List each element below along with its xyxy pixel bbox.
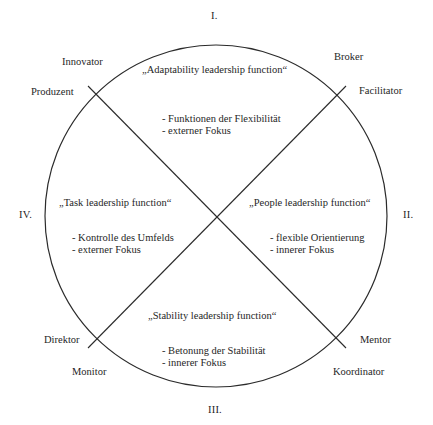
role-label-direktor: Direktor bbox=[44, 334, 80, 346]
quadrant-bullets-adaptability: - Funktionen der Flexibilität - externer… bbox=[162, 113, 281, 138]
quadrant-numeral-iii: III. bbox=[208, 404, 222, 416]
quadrant-numeral-ii: II. bbox=[403, 209, 413, 221]
role-label-produzent: Produzent bbox=[31, 86, 74, 98]
bullet-item: - innerer Fokus bbox=[270, 244, 364, 256]
role-label-koordinator: Koordinator bbox=[333, 366, 384, 378]
bullet-item: - Kontrolle des Umfelds bbox=[72, 232, 174, 244]
role-label-broker: Broker bbox=[334, 51, 363, 63]
quadrant-title-adaptability: „Adaptability leadership function“ bbox=[142, 64, 287, 76]
bullet-item: - flexible Orientierung bbox=[270, 232, 364, 244]
bullet-item: - Funktionen der Flexibilität bbox=[162, 113, 281, 125]
bullet-item: - Betonung der Stabilität bbox=[162, 345, 266, 357]
role-label-mentor: Mentor bbox=[360, 334, 391, 346]
quadrant-numeral-i: I. bbox=[211, 10, 218, 22]
quadrant-title-people: „People leadership function“ bbox=[249, 197, 370, 209]
diagram-canvas: I. II. III. IV. Innovator Produzent Brok… bbox=[0, 0, 433, 425]
bullet-item: - innerer Fokus bbox=[162, 357, 266, 369]
quadrant-numeral-iv: IV. bbox=[19, 209, 32, 221]
role-label-innovator: Innovator bbox=[62, 56, 103, 68]
quadrant-bullets-people: - flexible Orientierung - innerer Fokus bbox=[270, 232, 364, 257]
quadrant-title-task: „Task leadership function“ bbox=[59, 197, 171, 209]
quadrant-bullets-stability: - Betonung der Stabilität - innerer Foku… bbox=[162, 345, 266, 370]
role-label-facilitator: Facilitator bbox=[359, 85, 402, 97]
quadrant-bullets-task: - Kontrolle des Umfelds - externer Fokus bbox=[72, 232, 174, 257]
role-label-monitor: Monitor bbox=[72, 366, 106, 378]
bullet-item: - externer Fokus bbox=[72, 244, 174, 256]
bullet-item: - externer Fokus bbox=[162, 125, 281, 137]
quadrant-title-stability: „Stability leadership function“ bbox=[148, 310, 276, 322]
